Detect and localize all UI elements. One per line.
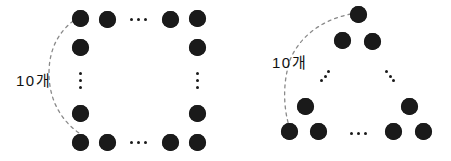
ellipsis-dot <box>196 72 199 75</box>
node-dot <box>189 105 206 122</box>
node-dot <box>189 10 206 27</box>
ellipsis-dot <box>357 132 360 135</box>
node-dot <box>189 39 206 56</box>
ellipsis-dot <box>389 75 392 78</box>
count-label-left: 10개 <box>16 73 51 88</box>
node-dot <box>281 123 298 140</box>
ellipsis-dot <box>364 132 367 135</box>
arc-layer <box>0 0 451 161</box>
node-dot <box>72 134 89 151</box>
ellipsis-dot <box>79 79 82 82</box>
ellipsis-dot <box>196 86 199 89</box>
ellipsis-dot <box>79 86 82 89</box>
ellipsis-dot <box>144 141 147 144</box>
ellipsis-dot <box>196 79 199 82</box>
ellipsis-dot <box>350 132 353 135</box>
ellipsis-dot <box>324 75 327 78</box>
node-dot <box>72 105 89 122</box>
node-dot <box>162 11 179 28</box>
node-dot <box>99 11 116 28</box>
ellipsis-dot <box>79 72 82 75</box>
ellipsis-dot <box>327 70 330 73</box>
node-dot <box>72 10 89 27</box>
figure-canvas: 10개 10개 <box>0 0 451 161</box>
node-dot <box>162 134 179 151</box>
node-dot <box>99 134 116 151</box>
node-dot <box>364 33 381 50</box>
node-dot <box>297 98 314 115</box>
node-dot <box>350 6 367 23</box>
node-dot <box>401 98 418 115</box>
node-dot <box>415 123 432 140</box>
node-dot <box>385 123 402 140</box>
ellipsis-dot <box>130 141 133 144</box>
ellipsis-dot <box>385 70 388 73</box>
ellipsis-dot <box>130 18 133 21</box>
node-dot <box>334 32 351 49</box>
ellipsis-dot <box>137 18 140 21</box>
ellipsis-dot <box>137 141 140 144</box>
node-dot <box>310 123 327 140</box>
node-dot <box>72 39 89 56</box>
node-dot <box>189 134 206 151</box>
count-label-right: 10개 <box>272 55 307 70</box>
ellipsis-dot <box>144 18 147 21</box>
